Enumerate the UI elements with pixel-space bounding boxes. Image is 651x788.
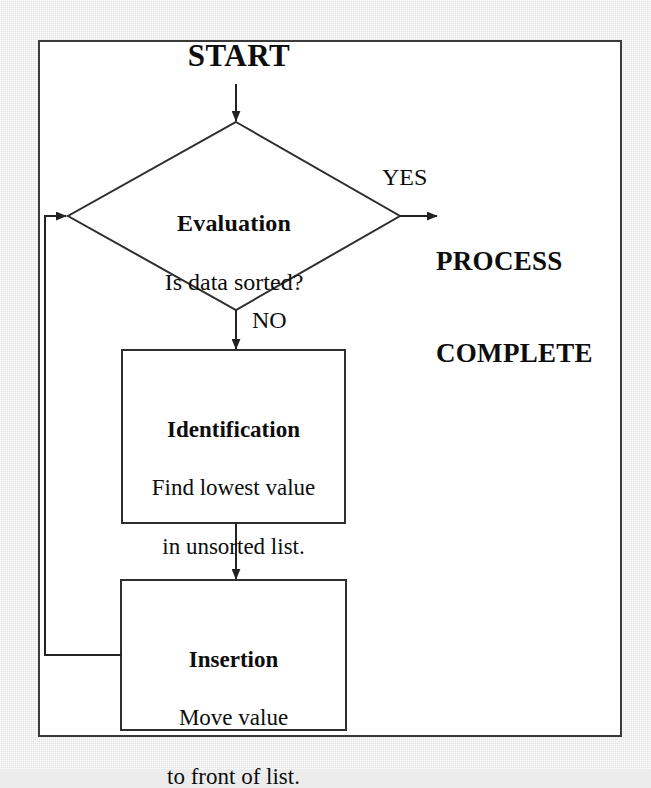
start-terminal-label: START (0, 40, 478, 72)
process-line1-insertion: Move value (121, 706, 346, 730)
branch-label-yes: YES (382, 165, 427, 190)
branch-label-no: NO (252, 308, 287, 333)
process-line2-insertion: to front of list. (121, 765, 346, 788)
decision-title: Evaluation (68, 211, 400, 236)
end-terminal-line1: PROCESS (436, 246, 622, 277)
process-title-identification: Identification (122, 418, 345, 442)
decision-text-group: Evaluation Is data sorted? (68, 178, 400, 329)
decision-question: Is data sorted? (68, 270, 400, 295)
process-title-insertion: Insertion (121, 648, 346, 672)
end-terminal-line2: COMPLETE (436, 338, 622, 369)
process-line1-identification: Find lowest value (122, 476, 345, 500)
process-line2-identification: in unsorted list. (122, 535, 345, 559)
process-text-insertion: Insertion Move value to front of list. (121, 615, 346, 788)
end-terminal-group: PROCESS COMPLETE (436, 185, 622, 429)
process-text-identification: Identification Find lowest value in unso… (122, 385, 345, 592)
